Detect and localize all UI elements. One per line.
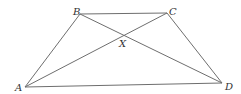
trapezoid-diagram: A B C D X	[0, 0, 241, 94]
label-d: D	[224, 81, 233, 92]
diagonal-ac	[25, 13, 167, 87]
label-x: X	[118, 38, 127, 49]
segment-bc	[80, 13, 167, 14]
segment-ab	[25, 14, 80, 87]
segment-da	[25, 83, 222, 87]
diagonal-bd	[80, 14, 222, 83]
segment-cd	[167, 13, 222, 83]
label-a: A	[14, 82, 22, 93]
label-c: C	[169, 6, 177, 17]
label-b: B	[72, 6, 80, 17]
